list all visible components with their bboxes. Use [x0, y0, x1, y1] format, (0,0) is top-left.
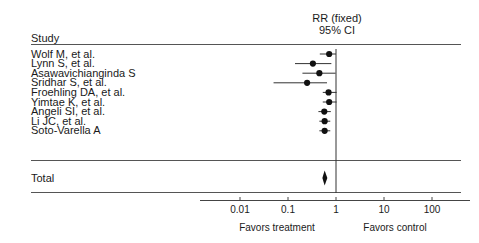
effect-size-marker [321, 109, 327, 115]
effect-size-marker [325, 89, 331, 95]
effect-size-marker [316, 70, 322, 76]
effect-size-marker [322, 118, 328, 124]
summary-diamond [322, 171, 327, 186]
summary-diamond-group [322, 171, 327, 186]
effect-size-marker [326, 99, 332, 105]
x-axis-ticks [240, 197, 432, 201]
effect-size-marker [310, 61, 316, 67]
effect-size-marker [326, 51, 332, 57]
forest-plot-graphics [0, 0, 479, 243]
effect-size-marker [304, 80, 310, 86]
effect-size-marker [322, 128, 328, 134]
